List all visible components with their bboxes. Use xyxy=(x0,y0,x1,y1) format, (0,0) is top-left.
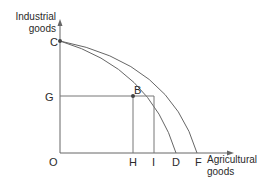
y-axis-arrow-icon xyxy=(58,19,63,26)
y-axis-label-line1: Industrial xyxy=(15,11,56,22)
point-d-label: D xyxy=(172,156,180,168)
point-c-marker xyxy=(58,39,62,43)
point-h-label: H xyxy=(129,156,137,168)
point-g-label: G xyxy=(45,91,54,103)
point-c-label: C xyxy=(50,36,58,48)
ppf-diagram: Industrial goods Agricultural goods C G … xyxy=(0,0,274,188)
point-o-label: O xyxy=(49,156,58,168)
x-axis-label-line2: goods xyxy=(207,166,234,177)
point-f-label: F xyxy=(195,156,202,168)
x-axis-label-line1: Agricultural xyxy=(207,154,257,165)
point-b-label: B xyxy=(134,84,141,96)
y-axis-label-line2: goods xyxy=(29,23,56,34)
point-i-label: I xyxy=(152,156,155,168)
inner-frontier-curve xyxy=(60,41,176,153)
outer-frontier-curve xyxy=(60,41,197,153)
